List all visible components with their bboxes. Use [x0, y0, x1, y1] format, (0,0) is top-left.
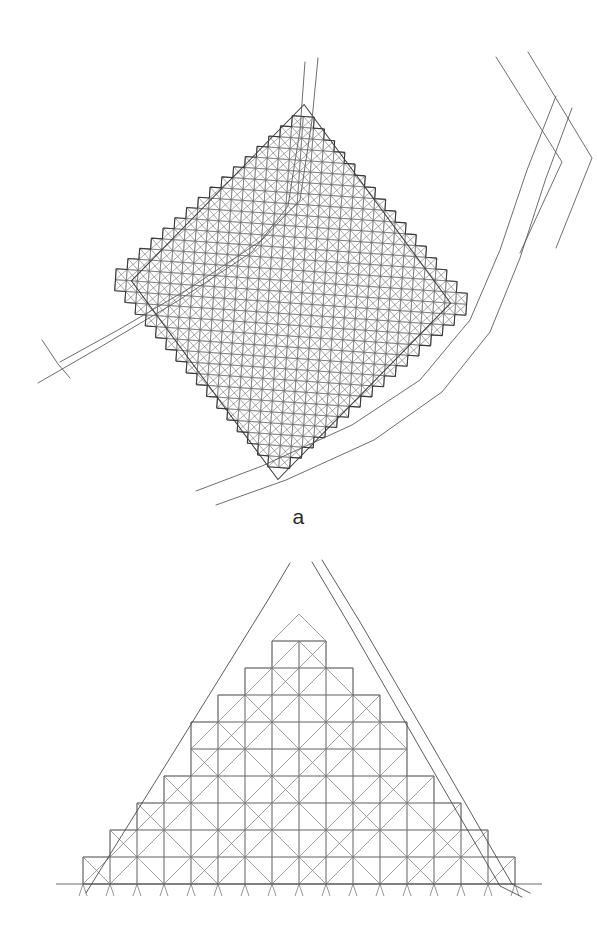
panel-b-mesh-diagram: b [0, 540, 597, 946]
panel-a-mesh-lines [103, 104, 479, 480]
channel-line-left-channel-line [86, 563, 290, 893]
panel-b-channel-group [86, 560, 530, 897]
panel-b-mesh-group [56, 614, 542, 896]
panel-a-canvas [0, 0, 597, 540]
panel-a-mesh-group [102, 92, 479, 492]
panel-b-canvas [0, 540, 597, 946]
channel-line-upper-right-bend-inner [528, 52, 592, 248]
channel-line-lower-right-channel-bank-outer [196, 96, 556, 491]
panel-b-baseline-ticks [79, 884, 519, 896]
channel-line-upper-right-bend-outer [496, 57, 562, 253]
panel-b-mesh-lines [83, 641, 515, 884]
panel-a-label: a [0, 506, 597, 527]
figure-root: a b [0, 0, 597, 946]
panel-a-mesh-diagram: a [0, 0, 597, 540]
panel-b-apex-triangle [272, 614, 326, 641]
